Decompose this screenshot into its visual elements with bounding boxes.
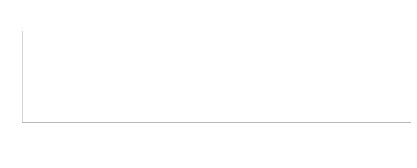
bar-series-group xyxy=(23,31,411,122)
x-axis-labels xyxy=(23,123,411,168)
plot-area xyxy=(23,31,411,122)
chart-container xyxy=(0,0,417,168)
